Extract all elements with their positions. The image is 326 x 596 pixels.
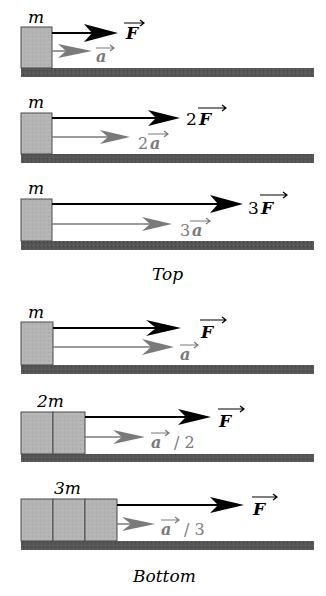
ground <box>21 241 314 250</box>
force-acceleration-diagram: m F a m 2 F 2 a m 3 F 3 a <box>0 0 326 596</box>
accel-label: a <box>192 221 202 240</box>
panel-5: 2m F a / 2 <box>21 391 314 462</box>
accel-coefficient: 3 <box>180 221 190 240</box>
panel-6: 3m F a / 3 <box>21 478 314 550</box>
force-label: F <box>260 198 275 218</box>
block <box>21 199 52 241</box>
accel-coefficient: 2 <box>138 134 148 153</box>
force-label: F <box>218 411 233 431</box>
mass-label: 3m <box>54 478 81 498</box>
block <box>21 412 53 454</box>
accel-label: a <box>96 47 106 66</box>
force-label: F <box>125 23 140 43</box>
mass-label: 2m <box>36 391 64 411</box>
group-caption-bottom: Bottom <box>132 566 196 586</box>
ground <box>21 454 314 462</box>
ground <box>21 365 314 374</box>
block <box>85 499 117 541</box>
panel-4: m F a <box>21 302 314 374</box>
accel-label: a <box>180 345 190 364</box>
block <box>53 499 85 541</box>
force-coefficient: 2 <box>186 109 197 129</box>
force-coefficient: 3 <box>248 198 259 218</box>
block <box>21 322 53 365</box>
block <box>21 499 53 541</box>
force-label: F <box>252 499 267 519</box>
force-label: F <box>198 109 213 129</box>
panel-2: m 2 F 2 a <box>21 92 314 163</box>
ground <box>21 68 314 77</box>
group-caption-top: Top <box>152 264 183 284</box>
accel-label: a <box>150 134 160 153</box>
panel-3: m 3 F 3 a <box>21 178 314 250</box>
accel-divisor: / 2 <box>174 433 195 452</box>
accel-divisor: / 3 <box>184 520 205 539</box>
mass-label: m <box>28 92 44 112</box>
mass-label: m <box>28 302 44 322</box>
mass-label: m <box>28 7 44 27</box>
ground <box>21 154 314 163</box>
block <box>53 412 85 454</box>
force-label: F <box>200 322 215 342</box>
block <box>21 27 52 68</box>
mass-label: m <box>28 178 44 198</box>
block <box>21 113 52 154</box>
panel-1: m F a <box>21 7 314 77</box>
ground <box>21 541 314 550</box>
accel-label: a <box>161 520 171 539</box>
accel-label: a <box>151 433 161 452</box>
